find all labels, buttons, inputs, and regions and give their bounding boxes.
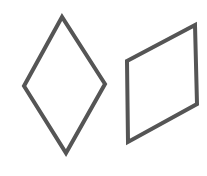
parallelogram-shape	[127, 25, 197, 142]
rhombus-shape	[24, 17, 105, 153]
shapes-svg	[0, 0, 207, 176]
diagram-canvas	[0, 0, 207, 176]
